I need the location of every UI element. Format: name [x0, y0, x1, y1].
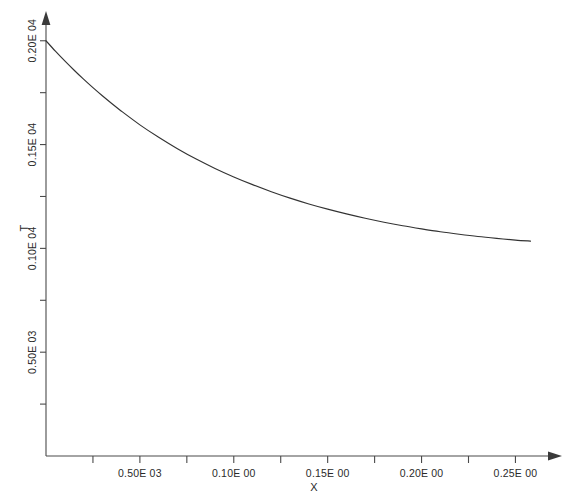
data-curve-series-0	[46, 41, 530, 241]
x-axis-title: X	[310, 481, 318, 493]
y-tick-label: 0.20E 04	[26, 19, 38, 63]
y-axis	[42, 11, 51, 456]
y-axis-tick-labels: 0.20E 040.15E 040.10E 040.50E 03	[26, 19, 38, 374]
y-axis-title: T	[18, 224, 30, 231]
x-tick-label: 0.20E 00	[400, 467, 444, 479]
x-tick-label: 0.50E 03	[118, 467, 162, 479]
x-axis-arrow-icon	[548, 452, 562, 461]
x-axis-minor-ticks	[93, 456, 469, 463]
y-tick-label: 0.15E 04	[26, 123, 38, 167]
y-axis-arrow-icon	[42, 11, 51, 25]
x-axis-tick-labels: 0.50E 030.10E 000.15E 000.20E 000.25E 00	[118, 467, 537, 479]
y-tick-label: 0.10E 04	[26, 227, 38, 271]
x-tick-label: 0.10E 00	[212, 467, 256, 479]
x-tick-label: 0.15E 00	[306, 467, 350, 479]
x-tick-label: 0.25E 00	[494, 467, 538, 479]
y-tick-label: 0.50E 03	[26, 330, 38, 374]
x-axis	[46, 452, 562, 461]
x-axis-ticks	[140, 456, 516, 463]
plot-figure: 0.20E 040.15E 040.10E 040.50E 03 0.50E 0…	[0, 0, 574, 504]
plot-canvas: 0.20E 040.15E 040.10E 040.50E 03 0.50E 0…	[0, 0, 574, 504]
